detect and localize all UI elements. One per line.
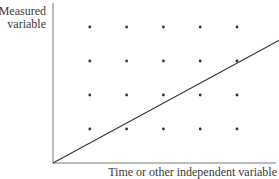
data-point (236, 128, 239, 131)
trend-line (53, 37, 279, 163)
data-point (125, 26, 128, 29)
data-point (236, 94, 239, 97)
data-point (199, 128, 202, 131)
data-point (88, 26, 91, 29)
data-point (236, 26, 239, 29)
data-point (199, 94, 202, 97)
data-point (199, 60, 202, 63)
data-point (162, 26, 165, 29)
data-point (162, 128, 165, 131)
y-axis-label-line2: variable (7, 17, 46, 31)
x-axis-label: Time or other independent variable (108, 165, 277, 179)
data-point (88, 94, 91, 97)
data-point (125, 94, 128, 97)
data-point (125, 128, 128, 131)
data-point (88, 60, 91, 63)
data-point (199, 26, 202, 29)
data-point (125, 60, 128, 63)
data-point (162, 60, 165, 63)
y-axis-label-line1: Measured (0, 4, 46, 18)
data-point (88, 128, 91, 131)
data-point (236, 60, 239, 63)
scatter-diagram: Measured variable Time or other independ… (0, 0, 279, 179)
data-point (162, 94, 165, 97)
data-points (88, 26, 238, 131)
